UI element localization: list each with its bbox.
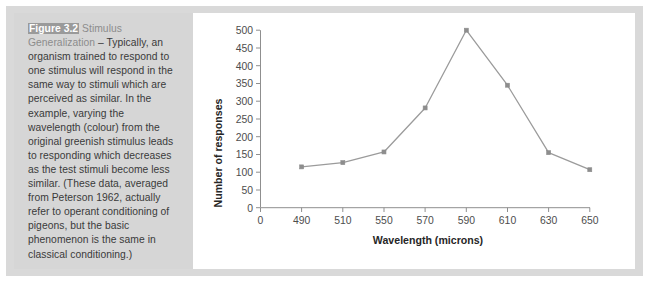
y-tick-label: 450 [236,43,254,54]
y-tick-label: 200 [236,132,254,143]
x-axis-ticks [261,208,590,212]
data-point [588,168,592,172]
y-tick-label: 0 [247,203,253,214]
x-tick-label: 630 [540,215,558,226]
data-point [423,106,427,110]
y-tick-label: 350 [236,78,254,89]
series-markers [300,28,592,172]
data-point [547,151,551,155]
data-point [341,161,345,165]
figure-caption-text: Figure 3.2 Stimulus Generalization – Typ… [28,22,179,262]
y-axis-title: Number of responses [212,98,224,207]
x-tick-label: 550 [375,215,393,226]
x-tick-label: 0 [258,215,264,226]
figure-container: Figure 3.2 Stimulus Generalization – Typ… [0,0,649,282]
x-tick-label: 650 [581,215,599,226]
x-tick-label: 510 [334,215,352,226]
figure-caption-panel: Figure 3.2 Stimulus Generalization – Typ… [14,13,193,269]
y-tick-label: 500 [236,25,254,36]
y-tick-label: 250 [236,114,254,125]
data-point [300,165,304,169]
data-point [382,150,386,154]
figure-caption-body: – Typically, an organism trained to resp… [28,37,173,259]
x-tick-label: 610 [499,215,517,226]
y-tick-label: 300 [236,96,254,107]
x-axis-title: Wavelength (microns) [373,234,483,246]
x-axis-tick-labels: 0 490 510 550 570 590 610 630 650 [258,215,599,226]
data-point [505,83,509,87]
x-tick-label: 570 [416,215,434,226]
y-axis-tick-labels: 500 450 400 350 300 250 200 150 100 50 0 [236,25,254,214]
line-chart: Number of responses 500 450 400 350 300 … [200,13,635,269]
figure-label: Figure 3.2 [28,23,79,34]
y-tick-label: 50 [241,185,253,196]
y-tick-label: 400 [236,61,254,72]
series-line-number-of-responses [302,30,590,170]
y-tick-label: 150 [236,149,254,160]
chart-panel: Number of responses 500 450 400 350 300 … [200,13,635,269]
y-axis-ticks [256,30,260,208]
x-tick-label: 590 [458,215,476,226]
data-point [464,28,468,32]
x-tick-label: 490 [293,215,311,226]
y-tick-label: 100 [236,167,254,178]
